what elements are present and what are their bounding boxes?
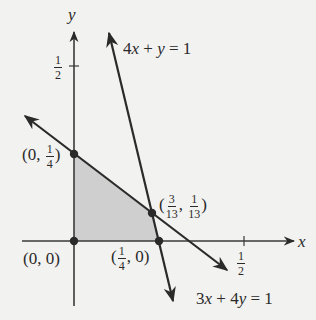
vertex-y-intercept xyxy=(70,150,78,158)
equation-label-3x-4y: 3x + 4y = 1 xyxy=(196,290,273,307)
y-tick-label: 12 xyxy=(53,54,63,81)
equation-label-4x-y: 4x + y = 1 xyxy=(123,40,191,57)
feasible-region-diagram: y x 12 12 4x + y = 1 3x + 4y = 1 (0, 14)… xyxy=(0,0,316,320)
y-axis-label: y xyxy=(68,6,76,23)
vertex-label-quarter-0: (14, 0) xyxy=(111,245,149,272)
x-axis-label: x xyxy=(298,233,306,250)
vertex-origin xyxy=(70,237,78,245)
vertex-label-origin: (0, 0) xyxy=(23,250,60,267)
vertex-label-intersection: (313, 113) xyxy=(159,193,207,220)
vertex-x-intercept xyxy=(155,237,163,245)
vertex-intersection xyxy=(148,209,156,217)
vertex-label-0-quarter: (0, 14) xyxy=(22,143,60,170)
x-tick-label: 12 xyxy=(236,250,246,277)
feasible-region xyxy=(74,154,159,241)
